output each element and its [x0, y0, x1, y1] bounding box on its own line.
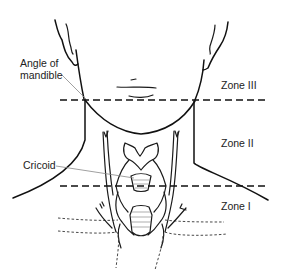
thyroid-gland [116, 192, 166, 248]
cricoid-leader-line [56, 166, 134, 178]
head-outline [55, 20, 228, 134]
neck-outline [13, 100, 268, 200]
angle-of-mandible-label: Angle of mandible [20, 57, 63, 81]
zone-2-label: Zone II [221, 137, 254, 149]
zone-1-label: Zone I [221, 200, 251, 212]
angle-label-line1: Angle of [20, 57, 63, 69]
angle-label-line2: mandible [20, 69, 63, 81]
cricoid-cartilage [131, 174, 151, 192]
zone-3-label: Zone III [221, 79, 257, 91]
cricoid-label: Cricoid [23, 159, 56, 171]
thyroid-cartilage [116, 143, 166, 212]
neck-zones-diagram: Angle of mandible Cricoid Zone III Zone … [0, 0, 282, 278]
